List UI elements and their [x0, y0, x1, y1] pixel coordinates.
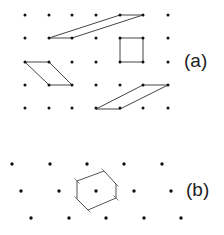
lattice-point	[142, 84, 145, 87]
lattice-point	[167, 107, 170, 110]
square-shape	[120, 38, 143, 62]
lattice-point	[71, 14, 74, 17]
lattice-point	[95, 107, 98, 110]
lattice-point	[95, 84, 98, 87]
lattice-point	[160, 162, 163, 165]
lattice-point	[122, 162, 125, 165]
lattice-point	[48, 14, 51, 17]
lattice-point	[24, 37, 27, 40]
parallelogram-top-shape	[49, 15, 143, 38]
lattice-point	[119, 14, 122, 17]
panel-a-label: (a)	[184, 50, 207, 72]
lattice-point	[167, 84, 170, 87]
lattice-point	[167, 61, 170, 64]
lattice-point	[71, 61, 74, 64]
lattice-point	[71, 37, 74, 40]
vertex-tick	[102, 169, 107, 174]
lattice-point	[95, 37, 98, 40]
lattice-point	[24, 107, 27, 110]
lattice-point	[24, 61, 27, 64]
lattice-point	[24, 84, 27, 87]
lattice-point	[71, 84, 74, 87]
lattice-point	[104, 216, 107, 219]
panel-b-label: (b)	[186, 179, 209, 201]
lattice-point	[142, 216, 145, 219]
lattice-point	[24, 14, 27, 17]
parallelogram-bottom-shape	[96, 85, 168, 109]
lattice-point	[142, 107, 145, 110]
lattice-point	[71, 107, 74, 110]
lattice-point	[67, 216, 70, 219]
parallelogram-left-shape	[25, 62, 72, 85]
lattice-point	[132, 189, 135, 192]
lattice-point	[85, 162, 88, 165]
lattice-point	[95, 14, 98, 17]
lattice-point	[95, 61, 98, 64]
lattice-point	[179, 216, 182, 219]
lattice-point	[94, 189, 97, 192]
lattice-point	[119, 37, 122, 40]
lattice-point	[19, 189, 22, 192]
lattice-point	[169, 189, 172, 192]
lattice-point	[10, 162, 13, 165]
lattice-point	[119, 61, 122, 64]
lattice-point	[142, 14, 145, 17]
lattice-point	[142, 37, 145, 40]
lattice-point	[167, 37, 170, 40]
lattice-point	[167, 14, 170, 17]
lattice-point	[29, 216, 32, 219]
lattice-point	[48, 107, 51, 110]
lattice-point	[48, 162, 51, 165]
vertex-tick	[86, 208, 91, 213]
lattice-point	[48, 61, 51, 64]
lattice-point	[119, 107, 122, 110]
lattice-point	[142, 61, 145, 64]
lattice-point	[48, 84, 51, 87]
lattice-point	[57, 189, 60, 192]
lattice-point	[48, 37, 51, 40]
lattice-point	[119, 84, 122, 87]
